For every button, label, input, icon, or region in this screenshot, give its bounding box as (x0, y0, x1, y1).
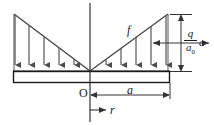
origin-label: O (79, 87, 88, 99)
load-diagram-figure: f O a r q a0 a (0, 0, 214, 125)
load-intensity-label: q a0 a (184, 28, 205, 56)
intensity-numerator: q (186, 28, 196, 40)
beam-body (14, 72, 170, 83)
intensity-denominator: a0 (184, 41, 197, 56)
left-load-triangle (14, 14, 90, 71)
span-dimension-label: a (127, 84, 133, 96)
left-load-arrows (15, 15, 74, 65)
diagram-canvas (0, 0, 214, 125)
intensity-denominator-subscript: 0 (192, 48, 196, 56)
radial-axis-label: r (110, 104, 115, 116)
load-function-label: f (127, 24, 130, 36)
intensity-fraction: q a0 (184, 28, 197, 56)
intensity-multiplier: a (199, 37, 205, 48)
